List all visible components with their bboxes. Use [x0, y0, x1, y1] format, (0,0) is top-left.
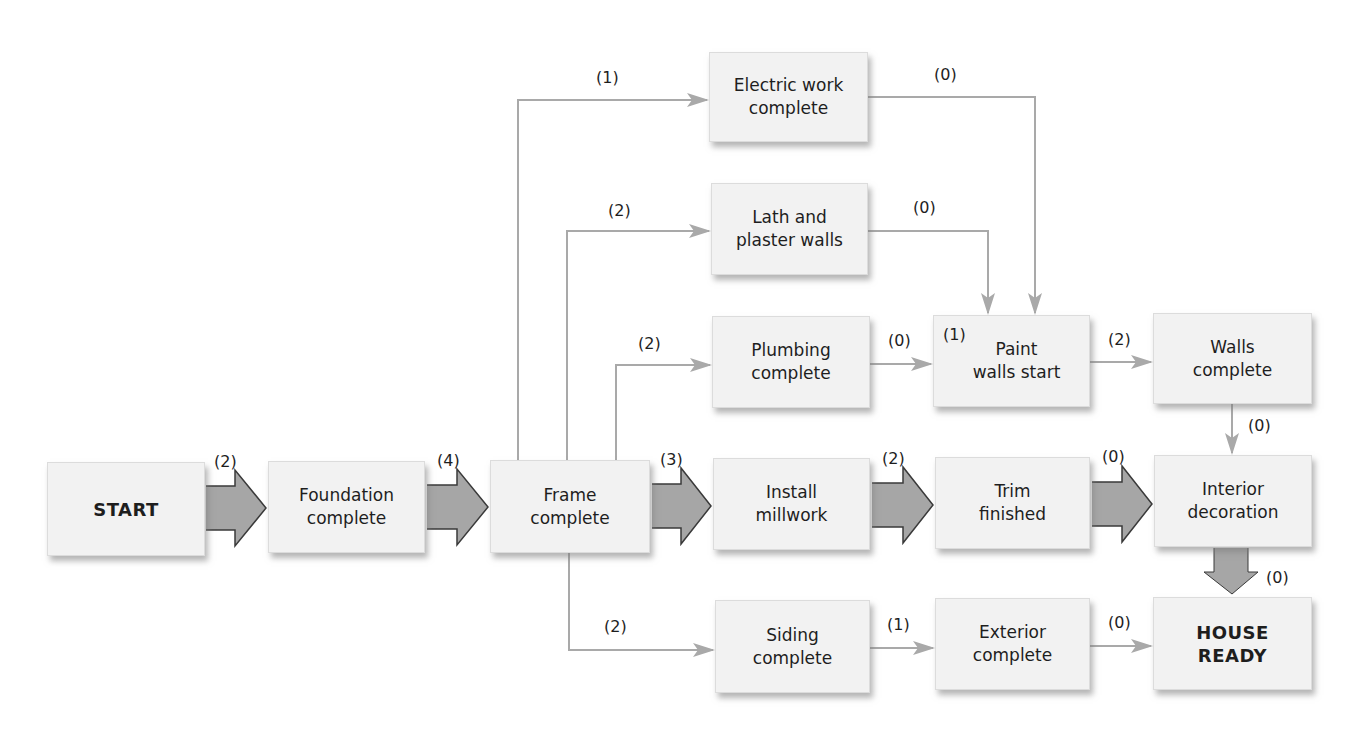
weight-frame-electric: (1): [596, 68, 619, 87]
weight-frame-siding: (2): [604, 617, 627, 636]
node-trim-finished: Trim finished: [935, 457, 1090, 549]
node-plumbing-complete: Plumbing complete: [712, 316, 870, 408]
node-foundation-complete: Foundation complete: [268, 461, 425, 553]
node-interior-decoration: Interior decoration: [1154, 455, 1312, 547]
weight-foundation-frame: (4): [437, 451, 460, 470]
weight-siding-exterior: (1): [887, 615, 910, 634]
weight-frame-lath: (2): [608, 201, 631, 220]
node-lath-and-plaster-walls: Lath and plaster walls: [711, 183, 868, 275]
node-exterior-complete: Exterior complete: [935, 598, 1090, 690]
weight-lath-paint: (0): [913, 198, 936, 217]
weight-paint-inner: (1): [943, 325, 966, 344]
edge-frame-electric: [518, 100, 707, 460]
weight-plumbing-paint: (0): [888, 331, 911, 350]
weight-walls-interior: (0): [1248, 416, 1271, 435]
weight-interior-house: (0): [1266, 568, 1289, 587]
fat-arrow-interior-house: [1204, 548, 1258, 594]
node-walls-complete: Walls complete: [1153, 313, 1312, 404]
edge-electric-paint: [868, 97, 1035, 313]
fat-arrow-foundation-frame: [427, 469, 488, 545]
node-house-ready: HOUSE READY: [1153, 597, 1312, 690]
weight-trim-interior: (0): [1102, 447, 1125, 466]
weight-paint-walls: (2): [1108, 330, 1131, 349]
edge-frame-plumbing: [616, 365, 710, 460]
node-frame-complete: Frame complete: [490, 460, 650, 553]
edge-lath-paint: [868, 231, 988, 313]
fat-arrow-start-foundation: [206, 470, 266, 546]
weight-electric-paint: (0): [934, 65, 957, 84]
thin-connectors: [518, 97, 1232, 650]
weight-frame-millwork: (3): [660, 450, 683, 469]
node-install-millwork: Install millwork: [713, 458, 870, 550]
fat-arrow-trim-interior: [1092, 466, 1152, 542]
weight-frame-plumbing: (2): [638, 334, 661, 353]
weight-start-foundation: (2): [214, 452, 237, 471]
weight-exterior-house: (0): [1108, 613, 1131, 632]
edge-frame-siding: [569, 553, 713, 650]
house-construction-network-diagram: START Foundation complete Frame complete…: [0, 0, 1362, 732]
weight-millwork-trim: (2): [882, 449, 905, 468]
fat-arrow-frame-millwork: [652, 468, 711, 544]
node-electric-work-complete: Electric work complete: [709, 52, 868, 142]
node-start: START: [47, 462, 205, 556]
node-siding-complete: Siding complete: [715, 600, 870, 693]
fat-arrow-millwork-trim: [872, 467, 933, 543]
